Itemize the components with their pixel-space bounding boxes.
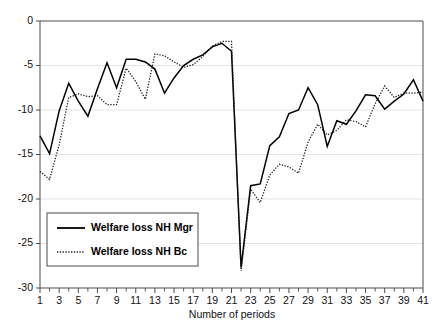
x-tick-label: 15 — [168, 294, 180, 306]
x-tick-label: 17 — [187, 294, 199, 306]
y-tick-label: -25 — [18, 236, 33, 248]
chart-background — [0, 0, 442, 329]
x-tick-label: 9 — [114, 294, 120, 306]
x-tick-label: 11 — [130, 294, 141, 306]
x-axis-ticks — [40, 288, 423, 293]
chart-legend[interactable]: Welfare loss NH MgrWelfare loss NH Bc — [47, 213, 198, 266]
x-tick-label: 1 — [37, 294, 43, 306]
legend-label-2[interactable]: Welfare loss NH Bc — [91, 245, 187, 257]
x-tick-label: 13 — [149, 294, 161, 306]
x-tick-label: 19 — [207, 294, 219, 306]
x-tick-label: 21 — [226, 294, 238, 306]
y-tick-label: -10 — [18, 103, 33, 115]
y-tick-label: -30 — [18, 281, 33, 293]
y-tick-label: -15 — [18, 147, 33, 159]
x-tick-label: 7 — [95, 294, 101, 306]
x-tick-label: 29 — [302, 294, 314, 306]
x-axis-tick-labels: 1357911131517192123252729313335373941 — [37, 294, 429, 306]
chart-figure: 0-5-10-15-20-25-30 135791113151719212325… — [0, 0, 442, 329]
figure-caption-strip — [0, 313, 442, 329]
y-tick-label: 0 — [27, 14, 33, 26]
welfare-loss-line-chart: 0-5-10-15-20-25-30 135791113151719212325… — [0, 0, 442, 329]
x-tick-label: 3 — [56, 294, 62, 306]
x-tick-label: 33 — [341, 294, 353, 306]
x-tick-label: 37 — [379, 294, 391, 306]
x-tick-label: 25 — [264, 294, 276, 306]
x-tick-label: 35 — [360, 294, 372, 306]
x-tick-label: 41 — [417, 294, 429, 306]
x-tick-label: 23 — [245, 294, 257, 306]
x-tick-label: 5 — [75, 294, 81, 306]
x-tick-label: 31 — [321, 294, 333, 306]
y-tick-label: -20 — [18, 192, 33, 204]
x-tick-label: 39 — [398, 294, 410, 306]
legend-label-1[interactable]: Welfare loss NH Mgr — [91, 221, 193, 233]
y-tick-label: -5 — [24, 58, 33, 70]
x-tick-label: 27 — [283, 294, 295, 306]
